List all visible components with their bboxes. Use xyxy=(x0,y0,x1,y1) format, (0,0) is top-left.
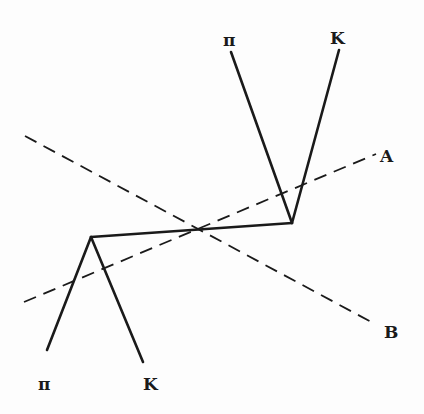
upper-k-track xyxy=(292,50,339,223)
label-bottom-k: K xyxy=(143,374,159,394)
label-bottom-pi: π xyxy=(38,374,50,394)
diagram-canvas: π K A B π K xyxy=(0,0,424,414)
label-axis-b: B xyxy=(384,322,398,342)
label-top-pi: π xyxy=(223,30,235,50)
diagram-svg: π K A B π K xyxy=(0,0,424,414)
upper-pi-track xyxy=(231,52,292,223)
label-top-k: K xyxy=(330,28,346,48)
lower-k-track xyxy=(91,237,143,362)
lower-pi-track xyxy=(47,237,91,350)
label-axis-a: A xyxy=(379,146,394,166)
dashed-axis-a xyxy=(24,154,376,302)
connecting-track xyxy=(91,223,292,237)
